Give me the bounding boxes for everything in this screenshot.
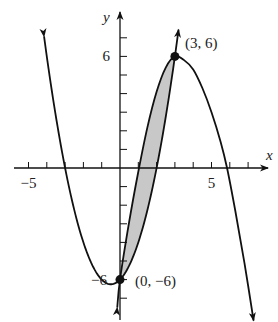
plot-area: x y (3, 6) (0, −6) −5 5 6 −6 [0,0,278,322]
y-tick-label-neg6: −6 [91,272,107,288]
x-tick-label-5: 5 [208,175,216,191]
y-tick-label-6: 6 [103,48,111,64]
x-axis-label: x [265,147,273,163]
data-point [116,275,125,284]
data-point [170,52,179,61]
x-tick-label-neg5: −5 [21,175,37,191]
annotation-point-3-6: (3, 6) [185,35,218,52]
annotation-point-0-neg6: (0, −6) [135,273,176,290]
graph-figure: x y (3, 6) (0, −6) −5 5 6 −6 [0,0,278,322]
series-parabola [44,30,179,285]
y-axis-label: y [101,9,110,25]
